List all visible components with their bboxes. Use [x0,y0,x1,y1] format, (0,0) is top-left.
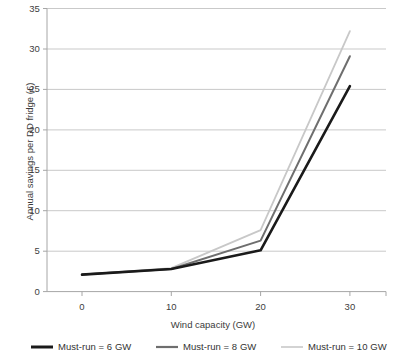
y-tick-label-35: 35 [14,4,40,14]
series-line-must-run-10gw [82,31,350,274]
y-tick-label-5: 5 [14,246,40,256]
series-line-must-run-6gw [82,86,350,274]
legend-label: Must-run = 10 GW [308,341,387,353]
x-tick-label-0: 0 [62,302,102,312]
y-axis-title: Annual savings per DD fridge (£) [24,67,35,237]
legend-item-must-run-6gw[interactable]: Must-run = 6 GW [31,339,131,355]
y-tick-label-0: 0 [14,287,40,297]
y-tick-label-30: 30 [14,44,40,54]
legend-label: Must-run = 8 GW [183,341,256,353]
legend-swatch-icon [156,338,178,356]
y-tick-marks [43,9,47,292]
gridlines [47,9,386,252]
chart-container: 35 30 25 20 15 10 5 0 0 10 20 30 Annual … [0,0,397,362]
chart-legend: Must-run = 6 GW Must-run = 8 GW Must-run… [0,339,397,357]
x-tick-label-20: 20 [241,302,281,312]
legend-swatch-icon [281,338,303,356]
legend-label: Must-run = 6 GW [58,341,131,353]
x-tick-label-10: 10 [151,302,191,312]
legend-swatch-icon [31,338,53,356]
x-axis-title: Wind capacity (GW) [40,319,386,330]
x-tick-label-30: 30 [330,302,370,312]
series-group [82,31,350,274]
legend-item-must-run-8gw[interactable]: Must-run = 8 GW [156,339,256,355]
legend-item-must-run-10gw[interactable]: Must-run = 10 GW [281,339,387,355]
x-tick-marks [82,292,386,296]
